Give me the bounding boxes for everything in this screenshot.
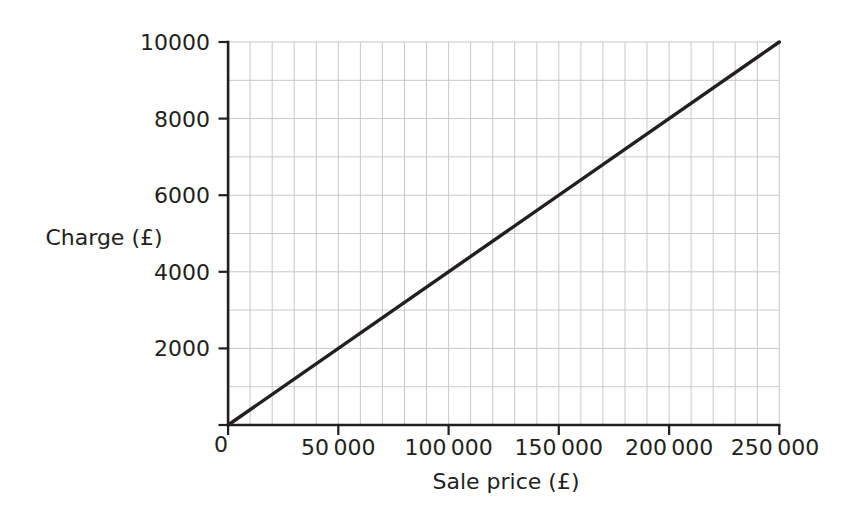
x-tick-label-100000: 100 000 [404,435,492,460]
x-tick-label-200000: 200 000 [625,435,713,460]
x-tick-label-250000: 250 000 [731,435,819,460]
y-tick-label-6000: 6000 [154,183,210,208]
y-tick-label-2000: 2000 [154,336,210,361]
y-axis-title: Charge (£) [45,225,162,250]
chart-container: 10000 8000 6000 4000 2000 0 50 000 100 0… [0,0,867,517]
origin-label-0: 0 [214,432,228,457]
line-chart: 10000 8000 6000 4000 2000 0 50 000 100 0… [0,0,867,517]
y-tick-label-4000: 4000 [154,260,210,285]
y-tick-label-8000: 8000 [154,107,210,132]
x-tick-label-50000: 50 000 [301,435,375,460]
x-tick-label-150000: 150 000 [515,435,603,460]
x-axis-title: Sale price (£) [433,469,580,494]
y-tick-label-10000: 10000 [140,30,210,55]
